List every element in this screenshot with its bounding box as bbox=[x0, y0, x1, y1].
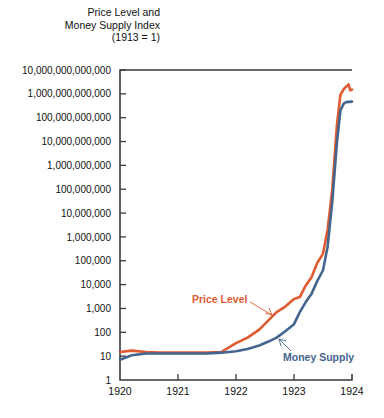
axis-lines bbox=[120, 70, 352, 380]
y-axis-labels: 10,000,000,000,0001,000,000,000,000100,0… bbox=[22, 65, 111, 386]
x-axis-labels: 19201921192219231924 bbox=[108, 385, 364, 397]
series-line-price-level bbox=[120, 84, 352, 352]
y-axis-tick-label: 10,000,000,000 bbox=[41, 136, 111, 147]
chart-container: Price Level and Money Supply Index (1913… bbox=[0, 0, 384, 418]
y-axis-tick-label: 1,000,000,000 bbox=[47, 160, 111, 171]
data-series-curves bbox=[120, 84, 352, 359]
y-axis-tick-label: 1,000,000 bbox=[67, 232, 112, 243]
y-axis-tick-label: 1,000,000,000,000 bbox=[28, 88, 112, 99]
x-axis-tick-label: 1921 bbox=[166, 385, 190, 397]
y-axis-tick-label: 100,000,000,000 bbox=[36, 112, 112, 123]
y-axis-tick-label: 100 bbox=[94, 327, 111, 338]
y-axis-tick-label: 10,000,000,000,000 bbox=[22, 65, 111, 76]
x-axis-tick-label: 1922 bbox=[224, 385, 248, 397]
y-axis-tick-label: 100,000,000 bbox=[55, 184, 111, 195]
x-axis-tick-label: 1923 bbox=[282, 385, 306, 397]
y-axis-tick-label: 1 bbox=[105, 375, 111, 386]
y-axis-tick-label: 1,000 bbox=[86, 303, 111, 314]
annotation-money-supply: Money Supply bbox=[283, 351, 354, 363]
chart-plot-area: 10,000,000,000,0001,000,000,000,000100,0… bbox=[0, 0, 384, 418]
y-axis-tick-label: 10,000,000 bbox=[61, 208, 111, 219]
leader-line-price-level bbox=[250, 302, 272, 315]
y-axis-tick-label: 10,000 bbox=[80, 279, 111, 290]
x-axis-tick-label: 1924 bbox=[340, 385, 364, 397]
y-axis-tick-label: 100,000 bbox=[75, 255, 112, 266]
y-axis-tick-label: 10 bbox=[100, 351, 112, 362]
y-axis-ticks bbox=[120, 70, 126, 356]
annotation-price-level: Price Level bbox=[192, 293, 248, 305]
series-line-money-supply bbox=[120, 102, 352, 360]
x-axis-tick-label: 1920 bbox=[108, 385, 132, 397]
x-axis-ticks bbox=[178, 374, 294, 380]
